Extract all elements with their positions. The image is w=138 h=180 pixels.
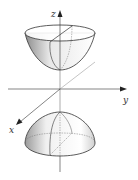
lower-sheet-body [25,112,95,156]
y-axis-arrow-icon [120,87,127,92]
lower-sheet [25,112,95,156]
z-axis-arrow-icon [58,10,63,17]
hyperboloid-two-sheets-diagram: z y x [0,0,138,180]
x-axis-arrow-icon [16,119,23,126]
y-axis-label: y [122,95,129,105]
x-axis-label: x [9,125,14,135]
z-axis-label: z [50,9,56,19]
